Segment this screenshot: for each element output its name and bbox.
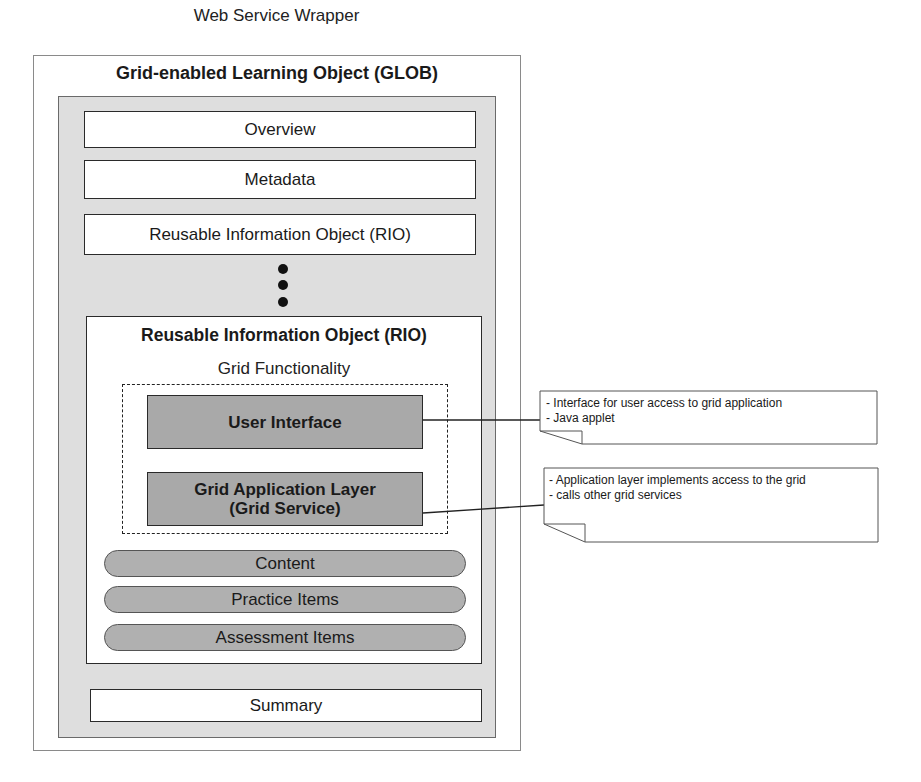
note-line: - Interface for user access to grid appl… [546, 396, 782, 411]
note-grid-application-layer: - Application layer implements access to… [549, 473, 806, 503]
connector-grid-application-layer [423, 505, 544, 513]
note-line: - Java applet [546, 411, 782, 426]
note-user-interface: - Interface for user access to grid appl… [546, 396, 782, 426]
note-line: - Application layer implements access to… [549, 473, 806, 488]
annotation-overlay [0, 0, 921, 782]
note-line: - calls other grid services [549, 488, 806, 503]
